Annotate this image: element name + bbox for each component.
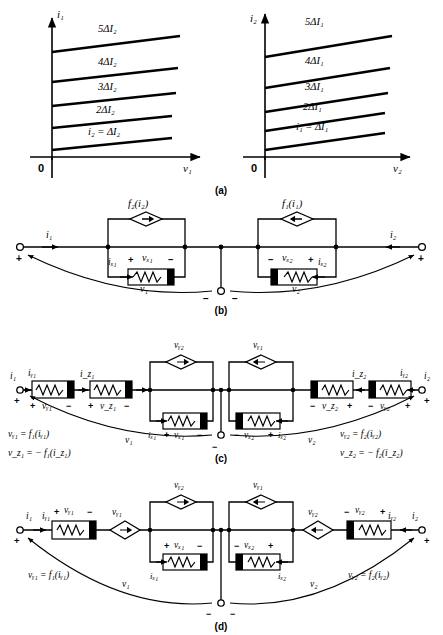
b-node-5 — [334, 245, 339, 250]
chart-right-curve-4 — [265, 68, 390, 88]
c-node-2 — [211, 388, 216, 393]
d-terminal-ground[interactable] — [218, 600, 224, 606]
b-label-v2: v₂ — [292, 283, 300, 294]
c-terminal-right[interactable] — [419, 387, 425, 393]
panel-caption-c: (c) — [215, 453, 227, 464]
b-terminal-left[interactable] — [17, 244, 24, 251]
b-terminal-right[interactable] — [419, 244, 426, 251]
b-label-v1: v₁ — [140, 283, 148, 294]
c-label-ix1: iₓ₁ — [148, 430, 156, 440]
chart-left: i₁ v₁ 0 5ΔI₂ 4ΔI₂ 3ΔI₂ 2ΔI₂ i₂ = ΔI₂ — [30, 8, 200, 178]
d-label-vy1: vᵧ₁ — [64, 505, 74, 515]
d-sign-x1-left: + — [164, 541, 169, 551]
d-sign-x1-right: − — [197, 541, 202, 551]
c-label-iy2: iᵧ₂ — [400, 368, 409, 378]
c-ground-sign-left: − — [212, 442, 217, 452]
c-label-vx2: vₓ₂ — [244, 430, 255, 440]
b-node-2 — [183, 245, 188, 250]
chart-right-curve-label-5: 5ΔI₁ — [305, 16, 324, 27]
chart-right-curve-label-2: 2ΔI₁ — [303, 101, 322, 112]
d-sign-x2-right: + — [268, 541, 273, 551]
chart-left-x-axis-label: v₁ — [183, 162, 192, 174]
d-resistor-x2-bar — [236, 554, 243, 570]
b-node-3 — [219, 245, 224, 250]
chart-right-curve-5 — [265, 36, 392, 57]
c-sign-x2-right: + — [268, 430, 273, 440]
c-source-left-label: vᵧ₂ — [174, 340, 184, 350]
c-terminal-left[interactable] — [17, 387, 23, 393]
d-label-v1: v₁ — [122, 579, 130, 589]
d-label-v2: v₂ — [310, 579, 318, 589]
c-terminal-ground[interactable] — [218, 432, 224, 438]
c-label-iz1: i_z₁ — [80, 369, 94, 379]
b-polarity-ground-left: − — [203, 293, 209, 304]
c-sign-z2-left: − — [310, 401, 315, 411]
chart-right-x-axis-label: v₂ — [393, 162, 402, 174]
c-label-ix2: iₓ₂ — [278, 430, 286, 440]
b-resistor-x1-bar — [167, 269, 174, 285]
chart-right-curve-1 — [265, 133, 385, 150]
d-node-5 — [291, 528, 296, 533]
chart-left-y-axis-label: i₁ — [57, 8, 64, 20]
chart-left-curve-label-2: 2ΔI₂ — [96, 104, 115, 115]
d-terminal-right[interactable] — [419, 527, 425, 533]
c-node-1 — [148, 388, 153, 393]
b-label-ix1: iₓ₁ — [108, 257, 117, 267]
c-equation-right-2: v_z₂ = − f₂(i_z₂) — [340, 448, 403, 459]
d-sign-y1-right: − — [87, 507, 92, 517]
d-ground-sign-left: − — [206, 609, 211, 619]
c-sign-x2-left: − — [234, 430, 239, 440]
chart-left-curve-label-5: 5ΔI₂ — [98, 23, 117, 34]
c-node-3 — [219, 388, 224, 393]
b-sign-x2-plus: + — [308, 254, 314, 265]
d-resistor-y1-bar — [89, 521, 96, 539]
d-source-outer-left-label: vᵧ₁ — [112, 507, 122, 517]
d-label-i1: i₁ — [26, 511, 32, 521]
b-label-i2: i₂ — [390, 229, 397, 240]
c-sign-y2-right: + — [405, 401, 410, 411]
chart-left-curve-1 — [52, 138, 172, 150]
chart-right-curve-label-1: i₁ = ΔI₁ — [296, 121, 328, 132]
c-sign-y2-left: − — [368, 401, 373, 411]
d-sign-y1-left: + — [54, 507, 59, 517]
c-resistor-z2-bar — [311, 381, 318, 398]
chart-right-curve-label-3: 3ΔI₁ — [304, 81, 324, 92]
d-sign-x2-left: − — [234, 541, 239, 551]
c-sign-y1-left: + — [30, 401, 35, 411]
chart-right-curve-label-4: 4ΔI₁ — [305, 55, 324, 66]
c-label-iz2: i_z₂ — [352, 369, 367, 379]
b-polarity-right: + — [418, 253, 424, 264]
c-resistor-z1-bar — [125, 381, 132, 398]
d-resistor-y2-bar — [347, 521, 354, 539]
c-sign-z1-right: − — [124, 401, 129, 411]
c-label-i2: i₂ — [424, 371, 431, 381]
b-source-right-label: f₁(i₁) — [282, 198, 303, 210]
b-label-ix2: iₓ₂ — [318, 257, 327, 267]
panel-caption-b: (b) — [215, 305, 228, 316]
panel-c: i₁ iᵧ₁ i_z₁ i_z₂ iᵧ₂ i₂ + + + vᵧ₁ − + v_… — [8, 340, 431, 459]
d-label-iy1: iᵧ₁ — [42, 511, 50, 521]
d-polarity-left: + — [14, 535, 20, 546]
chart-right-y-axis-label: i₂ — [250, 12, 257, 24]
c-equation-right-1: vᵧ₂ = f₂(iᵧ₂) — [340, 429, 381, 440]
c-polarity-right: + — [424, 395, 430, 406]
d-label-vx2: vₓ₂ — [244, 540, 255, 550]
b-node-4 — [256, 245, 261, 250]
b-label-i1: i₁ — [46, 229, 52, 240]
c-label-vy2: vᵧ₂ — [380, 401, 390, 411]
chart-left-curve-label-1: i₂ = ΔI₂ — [88, 126, 121, 137]
d-terminal-left[interactable] — [17, 527, 23, 533]
c-label-v2: v₂ — [308, 435, 316, 445]
d-ground-sign-right: − — [230, 609, 235, 619]
b-terminal-ground[interactable] — [218, 288, 225, 295]
figure-svg: i₁ v₁ 0 5ΔI₂ 4ΔI₂ 3ΔI₂ 2ΔI₂ i₂ = ΔI₂ i₂ … — [0, 0, 443, 635]
d-equation-left: vᵧ₁ = f₁(iᵧ₁) — [28, 570, 69, 581]
figure-root: i₁ v₁ 0 5ΔI₂ 4ΔI₂ 3ΔI₂ 2ΔI₂ i₂ = ΔI₂ i₂ … — [0, 0, 443, 635]
chart-left-curve-4 — [52, 68, 178, 82]
c-source-right-label: vᵧ₁ — [253, 340, 263, 350]
chart-left-curve-5 — [52, 36, 180, 52]
d-source-outer-right-label: vᵧ₂ — [308, 507, 318, 517]
d-sign-y2-left: − — [344, 507, 349, 517]
d-label-vx1: vₓ₁ — [174, 540, 184, 550]
c-equation-left-1: vᵧ₁ = f₁(iᵧ₁) — [8, 429, 49, 440]
